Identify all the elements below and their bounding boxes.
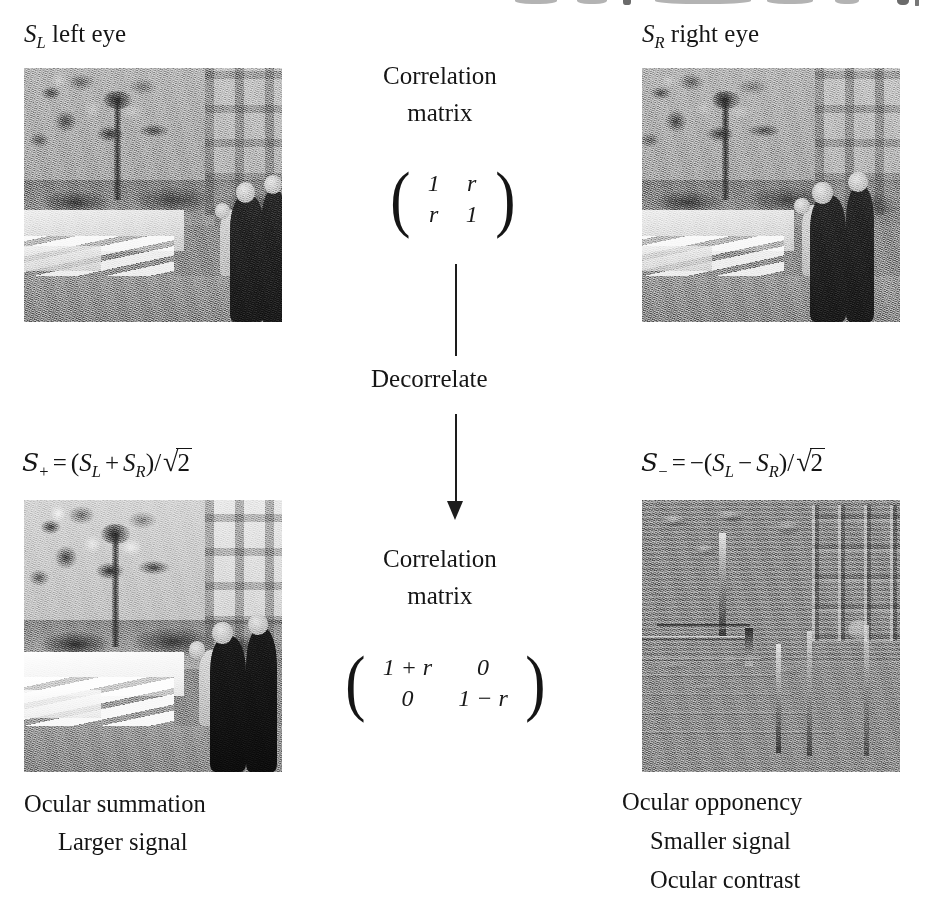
caption-smaller-signal: Smaller signal: [650, 827, 791, 855]
right-eye-label: SR right eye: [642, 20, 759, 53]
matrix-left-paren: (: [390, 170, 410, 228]
summation-sqrt: √2: [161, 446, 192, 478]
stereo-decorrelation-figure: SL left eye SR right eye: [0, 0, 925, 912]
opponency-lhs-subscript: −: [658, 462, 667, 481]
right-eye-symbol: S: [642, 20, 655, 47]
caption-ocular-summation: Ocular summation: [24, 790, 206, 818]
right-eye-subscript: R: [655, 33, 665, 52]
matrix-row: r 1: [415, 199, 491, 230]
summation-equals: =: [49, 449, 71, 476]
matrix-row: 1 r: [415, 168, 491, 199]
matrix-top-grid: 1 r r 1: [415, 168, 491, 230]
matrix-cell: 1: [453, 199, 491, 230]
photo-grain-fine: [642, 500, 900, 772]
correlation-matrix-top: ( 1 r r 1 ): [388, 168, 517, 230]
summation-term2-sub: R: [136, 462, 146, 481]
correlation-matrix-top-caption: Correlation matrix: [383, 62, 497, 128]
arrow-head-down-icon: [447, 501, 463, 520]
opponency-divide: /: [787, 449, 794, 476]
correlation-matrix-bottom: ( 1 + r 0 0 1 − r ): [343, 652, 547, 714]
matrix-bottom-grid: 1 + r 0 0 1 − r: [370, 652, 521, 714]
matrix-right-paren: ): [495, 170, 515, 228]
photo-ocular-opponency: [642, 500, 900, 772]
opponency-term1: S: [712, 449, 725, 476]
summation-operator: +: [101, 449, 123, 476]
correlation-bottom-line2: matrix: [383, 582, 497, 611]
summation-close-paren: ): [146, 448, 155, 477]
summation-term2: S: [123, 449, 136, 476]
matrix-cell: 0: [370, 683, 446, 714]
photo-grain-fine: [24, 500, 282, 772]
correlation-bottom-line1: Correlation: [383, 545, 497, 574]
decorrelate-text: Decorrelate: [371, 365, 488, 392]
matrix-cell: r: [415, 199, 453, 230]
opponency-term2-sub: R: [769, 462, 779, 481]
photo-left-eye: [24, 68, 282, 322]
opponency-term2: S: [756, 449, 769, 476]
left-eye-subscript: L: [37, 33, 46, 52]
left-eye-symbol: S: [24, 20, 37, 47]
matrix-cell: 1: [415, 168, 453, 199]
photo-right-eye: [642, 68, 900, 322]
opponency-radicand: 2: [810, 448, 826, 477]
correlation-top-line2: matrix: [383, 99, 497, 128]
left-eye-label: SL left eye: [24, 20, 126, 53]
arrow-shaft-lower: [455, 414, 457, 503]
caption-ocular-contrast: Ocular contrast: [650, 866, 800, 894]
decorrelate-label: Decorrelate: [371, 365, 488, 394]
opponency-sqrt: √2: [794, 446, 825, 478]
photo-grain-fine: [24, 68, 282, 322]
matrix-cell: 1 + r: [370, 652, 446, 683]
matrix-right-paren: ): [525, 654, 545, 712]
opponency-formula: S−=−(SL−SR)/√2: [641, 446, 825, 482]
matrix-row: 1 + r 0: [370, 652, 521, 683]
opponency-negate: −: [690, 449, 704, 476]
correlation-top-line1: Correlation: [383, 62, 497, 91]
opponency-lhs-symbol: S: [641, 448, 658, 477]
arrow-shaft-upper: [455, 264, 457, 356]
matrix-row: 0 1 − r: [370, 683, 521, 714]
summation-term1: S: [79, 449, 92, 476]
matrix-cell: r: [453, 168, 491, 199]
right-eye-text: right eye: [671, 20, 759, 47]
opponency-term1-sub: L: [725, 462, 734, 481]
photo-ocular-summation: [24, 500, 282, 772]
caption-larger-signal: Larger signal: [58, 828, 188, 856]
correlation-matrix-bottom-caption: Correlation matrix: [383, 545, 497, 611]
caption-ocular-opponency: Ocular opponency: [622, 788, 802, 816]
cropped-text-fragment-above: [505, 0, 925, 7]
opponency-close-paren: ): [779, 448, 788, 477]
matrix-left-paren: (: [345, 654, 365, 712]
matrix-cell: 0: [445, 652, 521, 683]
opponency-operator: −: [734, 449, 756, 476]
summation-formula: S+=(SL+SR)/√2: [22, 446, 192, 482]
summation-lhs-symbol: S: [22, 448, 39, 477]
summation-lhs-subscript: +: [39, 462, 48, 481]
summation-open-paren: (: [71, 448, 80, 477]
left-eye-text: left eye: [52, 20, 126, 47]
summation-term1-sub: L: [92, 462, 101, 481]
summation-divide: /: [154, 449, 161, 476]
summation-radicand: 2: [176, 448, 192, 477]
matrix-cell: 1 − r: [445, 683, 521, 714]
opponency-equals: =: [668, 449, 690, 476]
photo-grain-fine: [642, 68, 900, 322]
